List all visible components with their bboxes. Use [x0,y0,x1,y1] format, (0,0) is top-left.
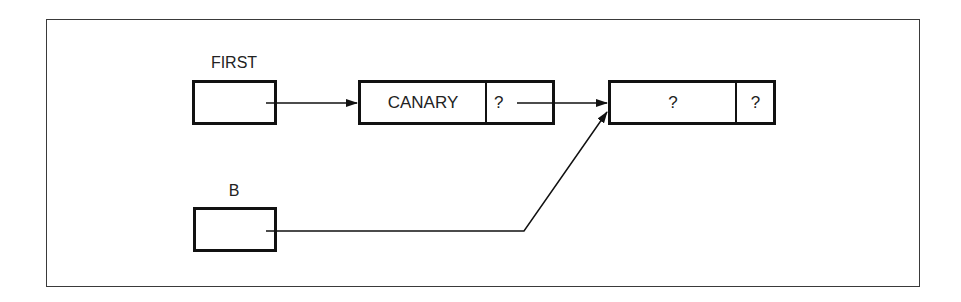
node-2-link-cell: ? [738,83,773,122]
node-2-data-cell: ? [611,83,735,122]
variable-label-b: B [192,182,276,200]
diagram-frame [46,19,920,287]
node-2-divider [735,83,737,122]
node-1-link-cell: ? [488,83,528,122]
list-node-2: ? ? [608,80,776,125]
node-1-data-cell: CANARY [361,83,485,122]
pointer-box-b [193,207,277,252]
variable-label-first: FIRST [192,54,276,72]
list-node-1: CANARY ? [358,80,555,125]
pointer-box-first [192,80,277,125]
node-1-divider [485,83,487,122]
